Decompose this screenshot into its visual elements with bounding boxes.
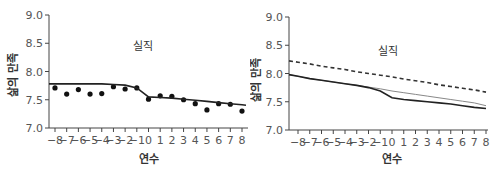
x-tick-label: 6 <box>215 134 222 147</box>
y-tick-label: 7.5 <box>266 96 284 109</box>
y-axis-label: 삶의 만족 <box>250 58 263 102</box>
x-tick-label: 3 <box>180 134 187 147</box>
y-tick-label: 8.0 <box>266 68 284 81</box>
series-line-dashed-reference <box>289 61 486 92</box>
data-point <box>52 85 57 90</box>
x-tick-label: 8 <box>483 136 490 149</box>
x-tick-label: 0 <box>389 136 396 149</box>
x-tick-label: 7 <box>227 134 234 147</box>
y-tick-label: 9.0 <box>266 11 284 24</box>
x-axis-label: 연수 <box>382 152 402 166</box>
x-tick-label: 1 <box>400 136 407 149</box>
x-tick-label: 5 <box>203 134 210 147</box>
x-tick-label: 7 <box>471 136 478 149</box>
y-tick-label: 9.0 <box>26 9 44 22</box>
chart-right: 7.07.58.08.59.0−8−7−6−5−4−3−2−1012345678… <box>250 0 500 175</box>
chart-left: 7.07.58.08.59.0−8−7−6−5−4−3−2−1012345678… <box>0 0 250 175</box>
x-tick-label: 1 <box>157 134 164 147</box>
x-axis-label: 연수 <box>139 152 159 166</box>
y-tick-label: 8.5 <box>266 39 284 52</box>
x-tick-label: 5 <box>447 136 454 149</box>
data-point <box>123 86 128 91</box>
x-tick-label: 8 <box>239 134 246 147</box>
data-point <box>193 101 198 106</box>
x-tick-label: 3 <box>424 136 431 149</box>
x-tick-label: −1 <box>129 134 145 147</box>
data-point <box>64 92 69 97</box>
x-tick-label: 2 <box>168 134 175 147</box>
y-tick-label: 7.0 <box>26 122 44 135</box>
chart-right-svg: 7.07.58.08.59.0−8−7−6−5−4−3−2−1012345678… <box>250 0 500 175</box>
annotation-label: 실직 <box>133 40 153 53</box>
x-tick-label: −1 <box>372 136 388 149</box>
data-point <box>204 107 209 112</box>
x-tick-label: 4 <box>436 136 443 149</box>
data-point <box>76 87 81 92</box>
y-tick-label: 8.5 <box>26 37 44 50</box>
data-point <box>87 92 92 97</box>
x-tick-label: 4 <box>192 134 199 147</box>
data-point <box>99 91 104 96</box>
series-line-with-unemployment <box>289 75 486 109</box>
y-tick-label: 8.0 <box>26 66 44 79</box>
y-tick-label: 7.5 <box>26 94 44 107</box>
x-tick-label: 2 <box>412 136 419 149</box>
x-tick-label: 6 <box>459 136 466 149</box>
y-tick-label: 7.0 <box>266 124 284 137</box>
x-tick-label: 0 <box>145 134 152 147</box>
chart-left-svg: 7.07.58.08.59.0−8−7−6−5−4−3−2−1012345678… <box>0 0 250 175</box>
y-axis-label: 삶의 만족 <box>6 53 20 97</box>
data-point <box>239 108 244 113</box>
annotation-label: 실직 <box>378 45 398 58</box>
